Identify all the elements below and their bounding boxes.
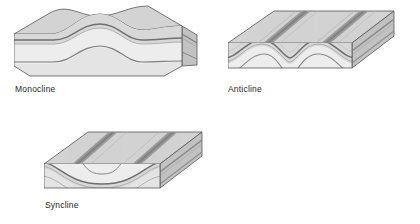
figure-caption-syncline: Syncline <box>45 200 79 210</box>
figure-syncline <box>44 128 214 204</box>
figure-caption-anticline: Anticline <box>228 84 262 94</box>
monocline-right-face <box>182 26 197 66</box>
figure-caption-monocline: Monocline <box>15 84 56 94</box>
fold-types-diagram-page: Monocline <box>0 0 420 224</box>
figure-monocline <box>14 4 204 84</box>
figure-anticline <box>228 6 408 86</box>
